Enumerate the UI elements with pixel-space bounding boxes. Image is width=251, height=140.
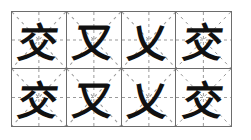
grid-cell: 交 — [176, 12, 231, 69]
grid-cell: 交 — [176, 69, 231, 126]
grid-cell: 交 — [12, 69, 67, 126]
grid-cell: 又 — [67, 69, 122, 126]
practice-grid: 交 又 乂 交 — [11, 11, 232, 127]
practice-character: 交 — [12, 69, 67, 126]
practice-character: 乂 — [122, 12, 177, 68]
practice-character: 又 — [67, 12, 122, 68]
practice-character: 乂 — [122, 69, 177, 126]
grid-cell: 交 — [12, 12, 67, 69]
grid-cell: 又 — [67, 12, 122, 69]
grid-cell: 乂 — [122, 69, 177, 126]
practice-character: 交 — [176, 12, 231, 68]
practice-character: 交 — [176, 69, 231, 126]
practice-character: 又 — [67, 69, 122, 126]
practice-character: 交 — [12, 12, 67, 68]
grid-cell: 乂 — [122, 12, 177, 69]
